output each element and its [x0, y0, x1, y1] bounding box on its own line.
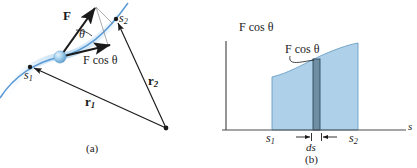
force-label-F: F	[63, 8, 71, 24]
point-label-s1-sub: 1	[29, 74, 33, 83]
x-tick-label-s1: s1	[266, 131, 275, 146]
position-vector-label-r1: r1	[85, 94, 95, 110]
position-vector-label-r1-sub: 1	[91, 100, 95, 110]
point-label-s2: s2	[119, 11, 128, 26]
x-axis-label: s	[408, 120, 412, 132]
position-vector-label-r2-sub: 2	[154, 79, 158, 89]
particle-ball	[54, 51, 66, 63]
y-axis-label: F cos θ	[239, 20, 273, 35]
curve-annotation-label: F cos θ	[285, 42, 319, 57]
angle-label-theta: θ	[79, 27, 85, 42]
point-label-s1: s1	[24, 68, 33, 83]
x-tick-label-s1-sub: 1	[271, 137, 275, 146]
ds-element-strip	[313, 59, 320, 130]
position-vector-label-r2: r2	[148, 73, 158, 89]
point-s2	[114, 17, 118, 21]
x-tick-label-s2-sub: 2	[354, 137, 358, 146]
position-vector-r2	[118, 23, 166, 128]
panel-a-caption: (a)	[86, 142, 98, 154]
ds-width-label: ds	[306, 141, 316, 153]
point-label-s2-sub: 2	[124, 17, 128, 26]
x-tick-label-s2: s2	[349, 131, 358, 146]
panel-b-caption: (b)	[305, 153, 318, 165]
position-vector-r1	[34, 68, 166, 128]
force-component-label: F cos θ	[83, 53, 117, 68]
